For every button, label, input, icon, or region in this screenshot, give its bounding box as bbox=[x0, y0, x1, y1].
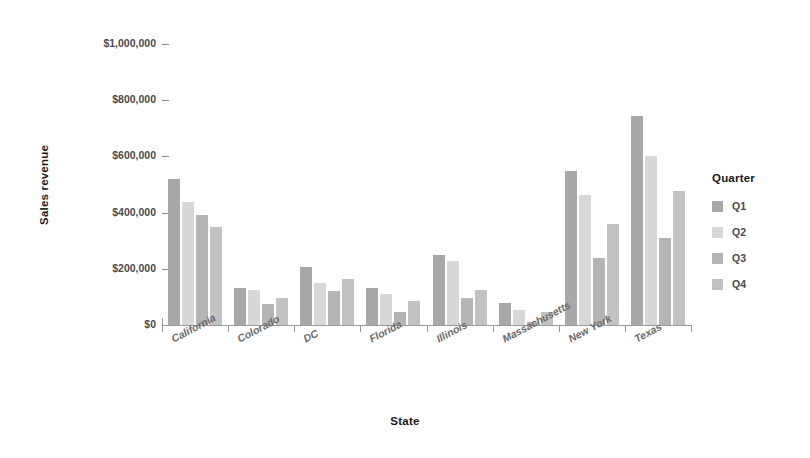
y-tick-label: $1,000,000 bbox=[62, 37, 156, 49]
bar bbox=[645, 156, 657, 325]
legend-items: Q1Q2Q3Q4 bbox=[712, 193, 804, 297]
bar bbox=[475, 290, 487, 325]
bar bbox=[408, 301, 420, 325]
bar bbox=[631, 116, 643, 325]
bar-group bbox=[299, 44, 355, 325]
bar bbox=[210, 227, 222, 325]
x-tick-label: DC bbox=[301, 327, 320, 345]
x-tick-mark bbox=[559, 325, 560, 332]
y-axis-title: Sales revenue bbox=[38, 0, 60, 110]
legend-item[interactable]: Q4 bbox=[712, 271, 804, 297]
x-tick-mark bbox=[691, 325, 692, 332]
y-axis-ticks: $0$200,000$400,000$600,000$800,000$1,000… bbox=[62, 0, 156, 458]
x-tick-mark bbox=[427, 325, 428, 332]
bar bbox=[248, 290, 260, 325]
bar bbox=[300, 267, 312, 325]
y-tick-label: $0 bbox=[62, 318, 156, 330]
legend-item-label: Q4 bbox=[732, 278, 746, 290]
chart-canvas: Sales revenue $0$200,000$400,000$600,000… bbox=[0, 0, 810, 458]
bar bbox=[342, 279, 354, 325]
bar bbox=[579, 195, 591, 325]
x-tick-mark bbox=[493, 325, 494, 332]
x-tick-mark bbox=[360, 325, 361, 332]
x-tick-mark bbox=[228, 325, 229, 332]
bar-group bbox=[167, 44, 223, 325]
x-tick-mark bbox=[625, 325, 626, 332]
y-tick-label: $600,000 bbox=[62, 149, 156, 161]
bar bbox=[499, 303, 511, 325]
bar bbox=[182, 202, 194, 325]
legend-item-label: Q1 bbox=[732, 200, 746, 212]
legend-item-label: Q3 bbox=[732, 252, 746, 264]
x-axis-title: State bbox=[0, 415, 810, 427]
bar-group bbox=[365, 44, 421, 325]
legend-swatch-icon bbox=[712, 253, 723, 264]
legend-swatch-icon bbox=[712, 201, 723, 212]
bar bbox=[447, 261, 459, 325]
bar-group bbox=[233, 44, 289, 325]
bar-group bbox=[432, 44, 488, 325]
legend-item[interactable]: Q3 bbox=[712, 245, 804, 271]
y-tick-label: $400,000 bbox=[62, 206, 156, 218]
legend-item-label: Q2 bbox=[732, 226, 746, 238]
bar bbox=[168, 179, 180, 325]
legend-item[interactable]: Q2 bbox=[712, 219, 804, 245]
bar-group bbox=[564, 44, 620, 325]
bar bbox=[314, 283, 326, 325]
legend: Quarter Q1Q2Q3Q4 bbox=[712, 172, 804, 297]
bar-group bbox=[498, 44, 554, 325]
x-tick-mark bbox=[294, 325, 295, 332]
bar bbox=[433, 255, 445, 325]
y-axis-title-text: Sales revenue bbox=[38, 110, 50, 260]
bar bbox=[366, 288, 378, 325]
bar bbox=[234, 288, 246, 325]
bar bbox=[328, 291, 340, 325]
x-tick-mark bbox=[162, 325, 163, 332]
y-tick-label: $800,000 bbox=[62, 93, 156, 105]
legend-swatch-icon bbox=[712, 279, 723, 290]
bar bbox=[607, 224, 619, 325]
legend-item[interactable]: Q1 bbox=[712, 193, 804, 219]
bar-group bbox=[630, 44, 686, 325]
bar bbox=[659, 238, 671, 325]
bar bbox=[673, 191, 685, 325]
y-tick-label: $200,000 bbox=[62, 262, 156, 274]
legend-title: Quarter bbox=[712, 172, 804, 184]
plot-area bbox=[162, 40, 690, 325]
bar bbox=[196, 215, 208, 325]
legend-swatch-icon bbox=[712, 227, 723, 238]
